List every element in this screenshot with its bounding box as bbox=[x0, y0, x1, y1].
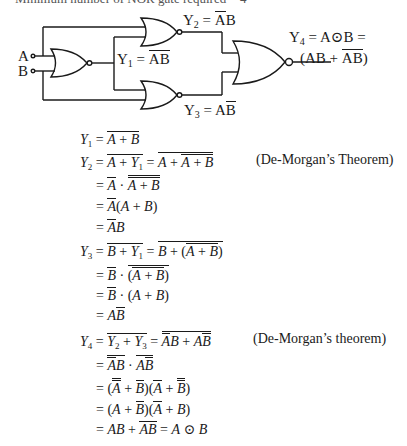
input-b-label: B bbox=[18, 64, 28, 79]
eq-y3-line2: = B · (A + B) bbox=[96, 265, 169, 283]
y2-circuit-label: Y2 = AB bbox=[183, 11, 236, 30]
y4-circuit-label-line2: (AB + AB) bbox=[300, 49, 368, 66]
eq-y4-line4: = (A + B)(A + B) bbox=[96, 401, 190, 417]
nor-gate-4 bbox=[233, 41, 285, 84]
input-a-terminal bbox=[31, 54, 35, 58]
nor-gate-3 bbox=[141, 81, 177, 109]
nor-gate-2 bbox=[141, 18, 177, 46]
eq-y1: Y1 = A + B bbox=[80, 131, 139, 149]
eq-y2-line1: Y2 = A + Y1 = A + A + B bbox=[80, 152, 213, 172]
eq-y2-line3: = A(A + B) bbox=[96, 198, 157, 214]
eq-y3-line3: = B · (A + B) bbox=[96, 287, 169, 303]
y1-circuit-label: Y1 = AB bbox=[117, 50, 170, 69]
gate1-bubble bbox=[87, 61, 92, 66]
nor-gate-1 bbox=[51, 49, 87, 77]
eq-y4-line1: Y4 = Y2 + Y3 = AB + AB bbox=[80, 331, 211, 351]
eq-y4-line3: = (A + B)(A + B) bbox=[96, 378, 190, 396]
y3-circuit-label: Y3 = AB bbox=[184, 101, 236, 120]
eq-y4-line2: = AB · AB bbox=[96, 355, 153, 373]
gate3-bubble bbox=[177, 93, 182, 98]
gate4-bubble bbox=[286, 59, 293, 66]
input-a-label: A bbox=[18, 49, 29, 64]
eq-y2-line2: = A · A + B bbox=[96, 175, 160, 193]
y4-demorgan-note: (De-Morgan’s theorem) bbox=[253, 332, 386, 346]
eq-y4-line5: = AB + AB = A ⊙ B bbox=[96, 421, 207, 437]
y4-circuit-label: Y4 = A⊙B = bbox=[289, 30, 366, 47]
eq-y3-line1: Y3 = B + Y1 = B + (A + B) bbox=[80, 241, 223, 261]
y2-demorgan-note: (De-Morgan’s Theorem) bbox=[256, 153, 394, 167]
input-b-terminal bbox=[31, 69, 35, 73]
eq-y3-line4: = AB bbox=[96, 307, 125, 323]
gate2-bubble bbox=[177, 30, 182, 35]
eq-y2-line4: = AB bbox=[96, 219, 125, 235]
